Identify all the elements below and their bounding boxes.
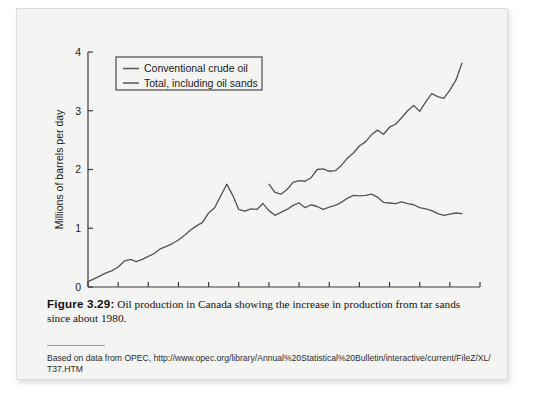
- series-conventional-crude: [88, 184, 462, 282]
- y-axis-title: Millions of barrels per day: [53, 109, 65, 229]
- line-chart: 0123419501955196019651970197519801985199…: [17, 9, 509, 291]
- source-line-1: Based on data from OPEC, http://www.opec…: [47, 353, 425, 363]
- figure-number: Figure 3.29:: [47, 297, 114, 310]
- figure-source: Based on data from OPEC, http://www.opec…: [47, 353, 491, 376]
- y-tick-label: 4: [75, 46, 81, 58]
- legend-label-2: Total, including oil sands: [144, 77, 258, 89]
- figure-caption: Figure 3.29: Oil production in Canada sh…: [47, 297, 485, 325]
- y-tick-label: 3: [75, 105, 81, 117]
- y-tick-label: 0: [75, 281, 81, 291]
- source-divider: [47, 345, 105, 346]
- series-total-including-oil-sands: [269, 63, 462, 194]
- legend-label-1: Conventional crude oil: [144, 62, 248, 74]
- figure-page: 0123419501955196019651970197519801985199…: [16, 8, 508, 380]
- y-tick-label: 1: [75, 222, 81, 234]
- y-tick-label: 2: [75, 163, 81, 175]
- chart-figure: 0123419501955196019651970197519801985199…: [17, 9, 509, 291]
